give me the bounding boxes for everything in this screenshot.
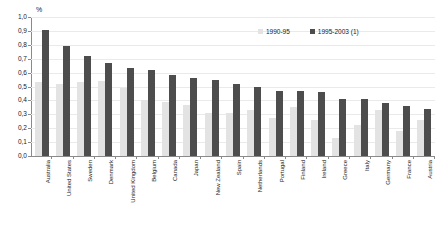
x-axis-tick [137, 156, 158, 159]
legend-label-1990-95: 1990-95 [266, 28, 290, 35]
x-axis-tick [244, 156, 265, 159]
bar [212, 80, 219, 156]
x-axis-category-label: Austria [427, 160, 433, 179]
x-axis-tick [74, 156, 95, 159]
bar-group [307, 17, 328, 156]
y-axis-unit-label: % [36, 6, 42, 13]
bar [354, 125, 361, 156]
x-axis-category: United States [52, 160, 73, 228]
x-axis-category-label: Ireland [321, 160, 327, 178]
bar [276, 91, 283, 156]
bar [375, 110, 382, 156]
x-axis-category: Sweden [74, 160, 95, 228]
y-axis-tick-mark [28, 100, 31, 101]
x-axis-category-label: Spain [236, 160, 242, 175]
legend: 1990-95 1995-2003 (1) [258, 28, 359, 35]
x-axis-category: Canada [159, 160, 180, 228]
x-axis-category: Finland [286, 160, 307, 228]
bar [290, 107, 297, 156]
y-axis-tick-label: 0,1 [18, 139, 27, 146]
y-axis-tick-label: 0,3 [18, 111, 27, 118]
x-axis-category-label: Germany [385, 160, 391, 185]
x-axis-category: New Zealand [201, 160, 222, 228]
x-axis-category-label: Canada [172, 160, 178, 181]
bar [339, 99, 346, 156]
x-axis-tick [116, 156, 137, 159]
bar-group [201, 17, 222, 156]
x-axis-category: Spain [222, 160, 243, 228]
x-axis-category-label: Portugal [279, 160, 285, 182]
x-axis-tick [159, 156, 180, 159]
y-axis-tick-mark [28, 59, 31, 60]
bar [318, 92, 325, 156]
legend-item-1990-95: 1990-95 [258, 28, 290, 35]
bar [183, 105, 190, 156]
y-axis-tick-label: 0,8 [18, 42, 27, 49]
y-axis-tick-label: 0,4 [18, 97, 27, 104]
x-axis-category-label: Sweden [87, 160, 93, 182]
bar-group [95, 17, 116, 156]
x-axis-tick [95, 156, 116, 159]
bar-group [159, 17, 180, 156]
bar [297, 91, 304, 156]
x-axis-category-label: Netherlands [257, 160, 263, 192]
bar-chart: % 0,00,10,20,30,40,50,60,70,80,91,0 Aust… [0, 0, 440, 231]
bar [361, 99, 368, 156]
bar-group [244, 17, 265, 156]
x-axis-category: Portugal [265, 160, 286, 228]
y-axis-tick-mark [28, 128, 31, 129]
x-axis-category: France [393, 160, 414, 228]
legend-item-1995-2003: 1995-2003 (1) [310, 28, 359, 35]
y-axis-tick-mark [28, 87, 31, 88]
x-axis-tick [222, 156, 243, 159]
x-axis-category-label: Belgium [151, 160, 157, 182]
bar-group [180, 17, 201, 156]
bar [247, 110, 254, 156]
x-axis-tick [414, 156, 435, 159]
bar-group [414, 17, 435, 156]
bar-group [74, 17, 95, 156]
x-axis-category-label: United Kingdom [130, 160, 136, 203]
x-axis-category-label: United States [66, 160, 72, 196]
x-axis-category: Netherlands [244, 160, 265, 228]
x-axis-tick [286, 156, 307, 159]
y-axis-tick-mark [28, 114, 31, 115]
y-axis-tick-label: 0,2 [18, 125, 27, 132]
bar [77, 82, 84, 156]
x-axis-category: Australia [31, 160, 52, 228]
x-axis-ticks [31, 156, 435, 159]
bar-group [222, 17, 243, 156]
y-axis-tick-label: 0,5 [18, 83, 27, 90]
bar [63, 46, 70, 156]
x-axis-category: Austria [414, 160, 435, 228]
bar-group [286, 17, 307, 156]
x-axis-category-label: Japan [193, 160, 199, 176]
x-axis-tick [201, 156, 222, 159]
x-axis-category-label: Finland [300, 160, 306, 180]
x-axis-tick [371, 156, 392, 159]
bar [105, 63, 112, 156]
x-axis-category: United Kingdom [116, 160, 137, 228]
x-axis-category: Denmark [95, 160, 116, 228]
x-axis-tick [180, 156, 201, 159]
bar [269, 118, 276, 156]
bar [424, 109, 431, 156]
bar [141, 100, 148, 156]
bar [127, 68, 134, 156]
bar-group [350, 17, 371, 156]
y-axis-tick-label: 0,9 [18, 28, 27, 35]
bar [332, 138, 339, 156]
bar [98, 81, 105, 156]
bar [396, 131, 403, 156]
y-axis-tick-mark [28, 73, 31, 74]
bar [254, 87, 261, 157]
bar [190, 78, 197, 156]
y-axis-tick-mark [28, 45, 31, 46]
x-axis-tick [329, 156, 350, 159]
bar-group [52, 17, 73, 156]
bar [148, 70, 155, 156]
bar [311, 120, 318, 156]
x-axis-category-label: Greece [342, 160, 348, 180]
plot-area [31, 17, 435, 156]
y-axis-tick-mark [28, 142, 31, 143]
